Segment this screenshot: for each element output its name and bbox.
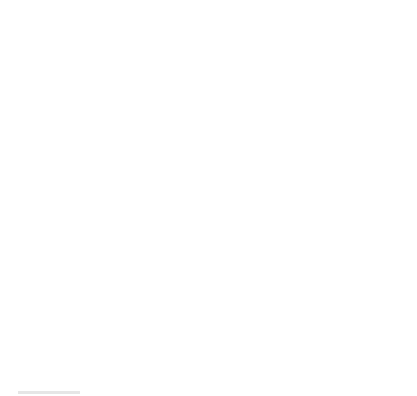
caption-fragment — [18, 391, 80, 394]
stress-ellipse-figure: σmin σmax σmin σmax =0.9 σmin σmax — [0, 0, 417, 396]
